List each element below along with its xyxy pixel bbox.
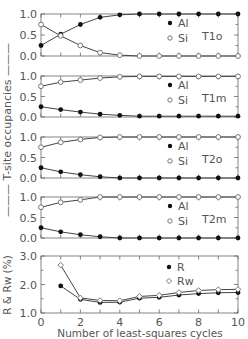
y-tick-label: 3.0 [20,250,38,263]
marker-open [236,135,241,140]
marker-filled [196,236,201,241]
marker-filled [196,12,201,17]
marker-open [78,78,83,83]
marker-filled [39,104,44,109]
y-tick-label: 1.0 [20,131,38,144]
marker-filled [98,112,103,117]
marker-filled [216,12,221,17]
marker-open [58,80,63,85]
y-tick-label: 0.5 [20,212,38,225]
marker-open [196,54,201,59]
marker-open [196,195,201,200]
legend-marker-filled [168,204,172,208]
chart-svg: 0.00.51.0AlSiT1o0.00.51.0AlSiT1m0.00.51.… [0,0,248,339]
legend-label-al: Al [178,79,189,92]
y-tick-label: 0.5 [20,152,38,165]
marker-open [137,135,142,140]
marker-open [117,53,122,58]
y-tick-label: 1.0 [20,191,38,204]
marker-open [39,22,44,27]
legend-marker-open [168,159,172,163]
legend-marker-open [168,98,172,102]
marker-open [98,135,103,140]
marker-open [58,33,63,38]
marker-filled [137,176,142,181]
panel-label: T1o [201,30,223,43]
marker-filled [137,114,142,119]
y-tick-label: 0.0 [20,232,38,245]
marker-filled [157,176,162,181]
marker-open [117,195,122,200]
marker-filled [216,236,221,241]
marker-filled [78,110,83,115]
marker-open [117,74,122,79]
marker-filled [117,113,122,118]
marker-open [39,84,44,89]
marker-filled [177,12,182,17]
y-tick-label: 0.5 [20,29,38,42]
marker-filled [157,12,162,17]
marker-filled [236,176,241,181]
marker-open [78,43,83,48]
marker-filled [117,236,122,241]
y-axis-title-occupancies: ——— T-site occupancies ——— [1,43,14,217]
marker-open [58,200,63,205]
legend-marker-diamond [166,278,171,283]
y-tick-label: 1.0 [20,8,38,21]
marker-filled [216,176,221,181]
panel-t1m: 0.00.51.0AlSiT1m [20,70,241,124]
marker-open [98,195,103,200]
marker-open [39,145,44,150]
marker-diamond [58,262,64,268]
marker-filled [196,114,201,119]
marker-filled [98,234,103,239]
y-tick-label: 0.0 [20,50,38,63]
series-line-r [61,286,238,303]
marker-filled [177,114,182,119]
y-tick-label: 0.0 [20,172,38,185]
legend-label-si: Si [178,155,188,168]
marker-filled [78,22,83,27]
y-tick-label: 2.0 [20,279,38,292]
marker-open [236,195,241,200]
marker-filled [98,15,103,20]
legend-label-al: Al [178,17,189,30]
marker-filled [157,236,162,241]
panel-label: T2o [201,153,223,166]
marker-filled [98,174,103,179]
marker-open [137,74,142,79]
legend-marker-filled [168,83,172,87]
marker-open [216,54,221,59]
x-tick-label: 0 [38,316,45,329]
marker-open [216,74,221,79]
legend-marker-filled [167,265,171,269]
legend-label-si: Si [178,94,188,107]
marker-filled [58,169,63,174]
series-line-rw [61,265,238,301]
marker-open [157,74,162,79]
y-tick-label: 0.5 [20,91,38,104]
y-tick-label: 1.0 [20,307,38,320]
panel-t2o: 0.00.51.0AlSiT2o [20,131,241,185]
legend-label-rw: Rw [177,275,194,288]
marker-filled [137,12,142,17]
marker-open [98,76,103,81]
marker-open [177,135,182,140]
marker-filled [236,236,241,241]
marker-open [157,54,162,59]
marker-filled [39,43,44,48]
marker-filled [177,236,182,241]
marker-open [196,74,201,79]
marker-open [196,135,201,140]
x-axis-title: Number of least-squares cycles [57,327,222,339]
marker-filled [78,172,83,177]
legend-marker-open [168,219,172,223]
marker-open [117,135,122,140]
legend-marker-filled [168,144,172,148]
marker-open [157,195,162,200]
marker-filled [58,107,63,112]
marker-filled [117,12,122,17]
marker-open [137,54,142,59]
marker-open [78,137,83,142]
y-tick-label: 0.0 [20,111,38,124]
